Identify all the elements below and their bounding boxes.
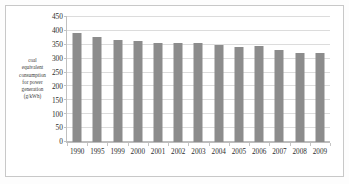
- bar: [174, 43, 183, 142]
- bar-slot: [168, 17, 188, 142]
- bar-slot: [229, 17, 249, 142]
- y-tick-label: 400: [39, 27, 63, 34]
- x-tick-label: 2002: [167, 148, 189, 157]
- x-tick-label: 1990: [66, 148, 88, 157]
- x-tick-mark: [87, 143, 88, 146]
- x-tick-mark: [188, 143, 189, 146]
- x-tick-label: 2006: [248, 148, 270, 157]
- bar: [113, 40, 122, 143]
- bar-slot: [269, 17, 289, 142]
- x-tick-label: 1995: [86, 148, 108, 157]
- bar-slot: [67, 17, 87, 142]
- bar: [295, 53, 304, 142]
- y-tick-label: 300: [39, 55, 63, 62]
- bar: [154, 43, 163, 142]
- y-axis-tick-labels: 050100150200250300350400450: [38, 17, 63, 142]
- x-tick-mark: [310, 143, 311, 146]
- bar-slot: [107, 17, 127, 142]
- x-tick-mark: [249, 143, 250, 146]
- x-tick-mark: [148, 143, 149, 146]
- bar: [275, 50, 284, 142]
- x-tick-mark: [67, 143, 68, 146]
- bar: [73, 33, 82, 142]
- x-tick-mark: [209, 143, 210, 146]
- y-tick-label: 250: [39, 69, 63, 76]
- x-tick-label: 2004: [208, 148, 230, 157]
- y-tick-label: 200: [39, 83, 63, 90]
- bar-slot: [249, 17, 269, 142]
- x-tick-label: 2001: [147, 148, 169, 157]
- bar-slot: [209, 17, 229, 142]
- bar: [194, 43, 203, 142]
- bar-slot: [188, 17, 208, 142]
- x-tick-label: 2000: [127, 148, 149, 157]
- x-tick-mark: [107, 143, 108, 146]
- x-tick-mark: [128, 143, 129, 146]
- x-tick-label: 2003: [188, 148, 210, 157]
- x-tick-mark: [269, 143, 270, 146]
- y-tick-label: 0: [39, 138, 63, 145]
- bar-slot: [310, 17, 330, 142]
- bar: [255, 46, 264, 142]
- x-axis-tick-marks: [67, 143, 330, 146]
- y-tick-label: 50: [39, 124, 63, 131]
- bar: [315, 53, 324, 142]
- x-tick-mark: [290, 143, 291, 146]
- chart-figure: coalequivalentconsumptionfor powergenera…: [0, 0, 349, 184]
- x-tick-label: 2008: [289, 148, 311, 157]
- bar-slot: [290, 17, 310, 142]
- bar: [214, 45, 223, 142]
- x-tick-label: 1999: [107, 148, 129, 157]
- bar: [93, 37, 102, 142]
- x-tick-mark: [229, 143, 230, 146]
- x-tick-mark: [330, 143, 331, 146]
- bar: [234, 47, 243, 142]
- y-tick-label: 350: [39, 41, 63, 48]
- x-tick-label: 2009: [309, 148, 331, 157]
- bar-slot: [128, 17, 148, 142]
- bar: [133, 41, 142, 142]
- y-tick-label: 150: [39, 97, 63, 104]
- y-tick-label: 100: [39, 111, 63, 118]
- x-axis-tick-labels: 1990199519992000200120022003200420052006…: [67, 148, 330, 160]
- bar-series: [67, 17, 330, 142]
- bar-slot: [148, 17, 168, 142]
- x-tick-mark: [168, 143, 169, 146]
- bar-slot: [87, 17, 107, 142]
- y-tick-label: 450: [39, 13, 63, 20]
- x-tick-label: 2005: [228, 148, 250, 157]
- x-tick-label: 2007: [268, 148, 290, 157]
